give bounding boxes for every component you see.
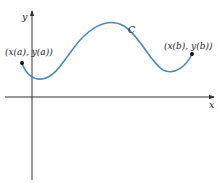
start-point xyxy=(20,61,24,65)
end-point-label: (x(b), y(b)) xyxy=(164,41,213,51)
parametric-curve-diagram: x y C (x(a), y(a)) (x(b), y(b)) xyxy=(0,0,220,183)
start-point-label: (x(a), y(a)) xyxy=(5,47,53,57)
x-axis-label: x xyxy=(209,99,215,110)
end-point xyxy=(190,52,194,56)
y-axis-label: y xyxy=(21,11,28,22)
curve-label: C xyxy=(128,24,136,35)
